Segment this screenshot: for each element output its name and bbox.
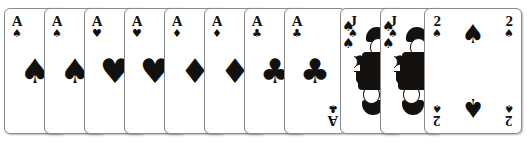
spade-icon-art-lower: ♠	[382, 36, 395, 50]
corner-index-top-left: A ♠	[49, 14, 65, 39]
club-icon: ♣	[249, 28, 265, 39]
spade-icon: ♠	[429, 103, 445, 114]
corner-index-bottom-right: 2 ♠	[501, 103, 517, 128]
corner-index-bottom-left: 2 ♠	[429, 103, 445, 128]
club-icon-center: ♣	[285, 54, 345, 88]
diamond-icon: ♦	[169, 28, 185, 39]
card-fan-scene: A ♠ ♠ A ♠ A ♠ ♠ A ♠ A ♥ ♥ A ♥	[0, 0, 527, 149]
corner-index-top-left: A ♥	[89, 14, 105, 39]
spade-icon: ♠	[49, 28, 65, 39]
corner-index-top-left: A ♦	[169, 14, 185, 39]
spade-icon-hat-badge: ♠	[368, 26, 380, 38]
heart-icon: ♥	[89, 28, 105, 39]
corner-index-top-left: A ♣	[249, 14, 265, 39]
spade-icon-pip-top: ♠	[425, 21, 521, 47]
spade-icon-art-upper: ♠	[342, 19, 355, 33]
corner-index-top-left: A ♠	[9, 14, 25, 39]
corner-index-top-left: A ♣	[289, 14, 305, 39]
playing-card-ace-clubs-2[interactable]: A ♣ ♣ A ♣	[284, 8, 346, 134]
corner-index-top-left: A ♥	[129, 14, 145, 39]
club-icon: ♣	[289, 28, 305, 39]
spade-icon-art-upper: ♠	[382, 19, 395, 33]
card-rank-label: A	[325, 113, 341, 128]
corner-index-top-left: A ♦	[209, 14, 225, 39]
spade-icon-hat-badge: ♠	[408, 26, 420, 38]
card-rank-label: 2	[429, 113, 445, 128]
spade-icon-art-lower: ♠	[342, 36, 355, 50]
club-icon: ♣	[325, 103, 341, 114]
corner-index-bottom-right: A ♣	[325, 103, 341, 128]
diamond-icon: ♦	[209, 28, 225, 39]
spade-icon: ♠	[501, 103, 517, 114]
card-rank-label: 2	[501, 113, 517, 128]
heart-icon: ♥	[129, 28, 145, 39]
spade-icon: ♠	[9, 28, 25, 39]
playing-card-two-spades[interactable]: 2 ♠ 2 ♠ ♠ ♠ 2 ♠ 2 ♠	[424, 8, 522, 134]
